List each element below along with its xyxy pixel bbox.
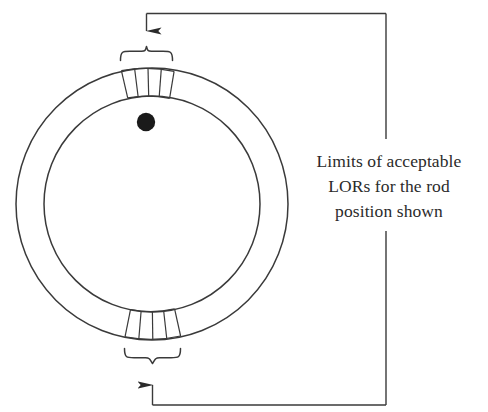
bottom-sector-divider-4	[164, 311, 167, 339]
bottom-detector-block-group	[125, 309, 181, 340]
figure-canvas: Limits of acceptable LORs for the rod po…	[0, 0, 488, 412]
top-sector-divider-5	[170, 71, 175, 98]
top-sector-divider-4	[159, 69, 161, 97]
top-brace	[121, 47, 173, 61]
top-sector-divider-3	[148, 68, 149, 96]
bottom-sector-divider-1	[125, 310, 131, 337]
top-callout-connector	[147, 14, 387, 32]
point-source-rod	[137, 113, 155, 131]
annotation-text-block: Limits of acceptable LORs for the rod po…	[317, 151, 462, 221]
scanner-ring-diagram: Limits of acceptable LORs for the rod po…	[0, 0, 488, 412]
annotation-line-1: Limits of acceptable	[317, 151, 462, 171]
ring-outer-circle	[16, 68, 288, 340]
bottom-sector-divider-5	[175, 309, 181, 336]
bottom-brace	[125, 349, 181, 364]
annotation-line-3: position shown	[335, 201, 443, 221]
annotation-line-2: LORs for the rod	[328, 176, 450, 196]
detector-ring	[16, 68, 288, 340]
top-sector-divider-1	[121, 71, 127, 98]
bottom-callout-connector	[153, 385, 387, 405]
top-detector-block-group	[121, 68, 174, 98]
bottom-sector-divider-2	[139, 311, 141, 339]
top-sector-divider-2	[135, 69, 139, 97]
